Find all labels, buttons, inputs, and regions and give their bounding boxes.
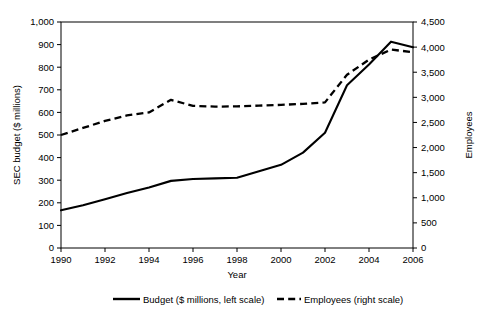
- y-axis-right-tick-labels: 05001,0001,5002,0002,5003,0003,5004,0004…: [421, 16, 445, 253]
- y-axis-right-tick-label: 0: [421, 242, 426, 253]
- y-axis-left-tick-label: 200: [38, 197, 54, 208]
- y-axis-right-ticks: [413, 22, 417, 248]
- y-axis-right-tick-label: 3,000: [421, 92, 445, 103]
- x-axis-tick-label: 2000: [270, 254, 291, 265]
- x-axis-tick-labels: 199019921994199619982000200220042006: [50, 254, 423, 265]
- x-axis-tick-label: 1994: [138, 254, 159, 265]
- x-axis-tick-label: 1992: [94, 254, 115, 265]
- y-axis-right-tick-label: 1,500: [421, 167, 445, 178]
- y-axis-left-tick-labels: 01002003004005006007008009001,000: [30, 16, 54, 253]
- x-axis-title: Year: [227, 269, 246, 280]
- y-axis-right-tick-label: 2,500: [421, 117, 445, 128]
- x-axis-tick-label: 1998: [226, 254, 247, 265]
- x-axis-ticks: [61, 248, 413, 252]
- y-axis-left-tick-label: 800: [38, 62, 54, 73]
- y-axis-right-tick-label: 4,000: [421, 42, 445, 53]
- y-axis-right-tick-label: 500: [421, 217, 437, 228]
- x-axis-tick-label: 1996: [182, 254, 203, 265]
- y-axis-left-tick-label: 700: [38, 84, 54, 95]
- y-axis-right-tick-label: 2,000: [421, 142, 445, 153]
- employees-line-series: [61, 50, 413, 135]
- y-axis-left-tick-label: 300: [38, 175, 54, 186]
- y-axis-left-tick-label: 1,000: [30, 16, 54, 27]
- legend-label-budget: Budget ($ millions, left scale): [143, 294, 264, 305]
- y-axis-right-tick-label: 4,500: [421, 16, 445, 27]
- y-axis-left-tick-label: 600: [38, 107, 54, 118]
- y-axis-left-tick-label: 900: [38, 39, 54, 50]
- x-axis-tick-label: 2002: [314, 254, 335, 265]
- sec-budget-employees-line-chart: 01002003004005006007008009001,000 05001,…: [0, 0, 490, 317]
- x-axis-tick-label: 2004: [358, 254, 379, 265]
- x-axis-tick-label: 2006: [402, 254, 423, 265]
- y-axis-right-tick-label: 3,500: [421, 67, 445, 78]
- y-axis-right-title: Employees: [463, 111, 474, 158]
- plot-area-border: [61, 22, 413, 248]
- y-axis-left-tick-label: 500: [38, 129, 54, 140]
- y-axis-right-tick-label: 1,000: [421, 192, 445, 203]
- y-axis-left-tick-label: 100: [38, 220, 54, 231]
- chart-legend: Budget ($ millions, left scale) Employee…: [113, 294, 403, 305]
- legend-label-employees: Employees (right scale): [304, 294, 403, 305]
- x-axis-tick-label: 1990: [50, 254, 71, 265]
- budget-line-series: [61, 42, 413, 211]
- y-axis-left-title: SEC budget ($ millions): [11, 85, 22, 185]
- y-axis-left-tick-label: 400: [38, 152, 54, 163]
- chart-container: 01002003004005006007008009001,000 05001,…: [0, 0, 490, 317]
- y-axis-left-tick-label: 0: [49, 242, 54, 253]
- y-axis-left-ticks: [57, 22, 61, 248]
